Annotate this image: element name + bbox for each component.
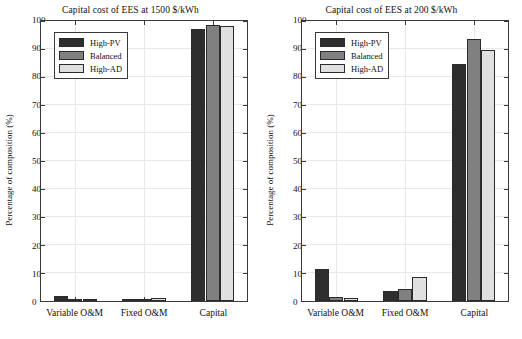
y-tick-mark bbox=[302, 189, 306, 190]
bar bbox=[191, 29, 205, 301]
legend-swatch-icon bbox=[59, 64, 84, 73]
y-tick-label: 100 bbox=[32, 15, 34, 25]
legend-item[interactable]: High-PV bbox=[59, 36, 122, 49]
y-tick-mark bbox=[41, 273, 45, 274]
legend-label: High-AD bbox=[90, 64, 122, 74]
y-tick-label: 100 bbox=[293, 15, 295, 25]
y-tick-mark bbox=[302, 105, 306, 106]
plot-wrapper: 0102030405060708090100Variable O&MFixed … bbox=[40, 20, 248, 302]
y-tick-mark bbox=[243, 273, 247, 274]
y-tick-mark bbox=[243, 49, 247, 50]
y-tick-label: 60 bbox=[293, 128, 295, 138]
y-tick-label: 70 bbox=[32, 100, 34, 110]
bar bbox=[344, 298, 358, 301]
bar bbox=[220, 26, 234, 301]
x-tick-label: Fixed O&M bbox=[382, 308, 429, 318]
y-tick-mark bbox=[504, 301, 508, 302]
y-tick-mark bbox=[504, 21, 508, 22]
legend-label: Balanced bbox=[90, 51, 122, 61]
figure-container: Capital cost of EES at 1500 $/kWhPercent… bbox=[0, 0, 522, 339]
y-tick-mark bbox=[243, 217, 247, 218]
y-tick-label: 20 bbox=[293, 241, 295, 251]
y-tick-mark bbox=[41, 189, 45, 190]
y-tick-mark bbox=[302, 217, 306, 218]
x-tick-mark bbox=[336, 21, 337, 25]
y-tick-mark bbox=[504, 133, 508, 134]
y-tick-label: 50 bbox=[293, 156, 295, 166]
legend-item[interactable]: Balanced bbox=[320, 49, 383, 62]
x-tick-label: Variable O&M bbox=[307, 308, 364, 318]
y-tick-label: 90 bbox=[32, 43, 34, 53]
y-tick-mark bbox=[41, 133, 45, 134]
y-tick-mark bbox=[302, 77, 306, 78]
y-tick-label: 0 bbox=[293, 297, 295, 307]
y-tick-mark bbox=[243, 189, 247, 190]
y-tick-label: 60 bbox=[32, 128, 34, 138]
legend-item[interactable]: High-PV bbox=[320, 36, 383, 49]
y-tick-label: 10 bbox=[32, 269, 34, 279]
x-tick-mark bbox=[405, 21, 406, 25]
y-tick-mark bbox=[41, 77, 45, 78]
chart-legend: High-PVBalancedHigh-AD bbox=[54, 32, 128, 79]
y-tick-label: 70 bbox=[293, 100, 295, 110]
y-tick-label: 90 bbox=[293, 43, 295, 53]
bar bbox=[206, 25, 220, 301]
legend-swatch-icon bbox=[59, 51, 84, 60]
y-tick-mark bbox=[302, 49, 306, 50]
y-tick-mark bbox=[41, 105, 45, 106]
y-tick-mark bbox=[243, 21, 247, 22]
y-axis-label-text: Percentage of composition (%) bbox=[4, 114, 14, 226]
y-tick-mark bbox=[504, 217, 508, 218]
bar bbox=[452, 64, 466, 301]
legend-item[interactable]: High-AD bbox=[59, 62, 122, 75]
bar bbox=[151, 298, 165, 301]
y-tick-mark bbox=[504, 49, 508, 50]
chart-title: Capital cost of EES at 200 $/kWh bbox=[261, 5, 522, 15]
y-tick-label: 30 bbox=[293, 212, 295, 222]
y-tick-mark bbox=[504, 189, 508, 190]
bar bbox=[383, 291, 397, 301]
legend-item[interactable]: Balanced bbox=[59, 49, 122, 62]
bar bbox=[481, 50, 495, 301]
legend-label: High-PV bbox=[351, 38, 382, 48]
y-tick-mark bbox=[302, 21, 306, 22]
chart-legend: High-PVBalancedHigh-AD bbox=[315, 32, 389, 79]
chart-panel: Capital cost of EES at 1500 $/kWhPercent… bbox=[0, 0, 261, 339]
y-tick-label: 40 bbox=[32, 184, 34, 194]
y-tick-mark bbox=[302, 161, 306, 162]
bar bbox=[329, 297, 343, 301]
y-tick-mark bbox=[41, 245, 45, 246]
chart-title: Capital cost of EES at 1500 $/kWh bbox=[0, 5, 261, 15]
x-tick-mark bbox=[474, 21, 475, 25]
legend-label: Balanced bbox=[351, 51, 383, 61]
x-tick-mark bbox=[144, 21, 145, 25]
legend-swatch-icon bbox=[320, 38, 345, 47]
legend-swatch-icon bbox=[320, 51, 345, 60]
y-tick-mark bbox=[243, 77, 247, 78]
y-tick-mark bbox=[41, 21, 45, 22]
x-tick-label: Variable O&M bbox=[46, 308, 103, 318]
y-tick-mark bbox=[243, 161, 247, 162]
bar bbox=[68, 299, 82, 301]
legend-swatch-icon bbox=[59, 38, 84, 47]
legend-item[interactable]: High-AD bbox=[320, 62, 383, 75]
y-axis-label: Percentage of composition (%) bbox=[2, 0, 16, 339]
y-tick-label: 50 bbox=[32, 156, 34, 166]
y-axis-label: Percentage of composition (%) bbox=[263, 0, 277, 339]
y-tick-label: 10 bbox=[293, 269, 295, 279]
y-tick-mark bbox=[504, 105, 508, 106]
y-tick-mark bbox=[243, 133, 247, 134]
y-tick-mark bbox=[302, 133, 306, 134]
legend-label: High-AD bbox=[351, 64, 383, 74]
y-tick-label: 30 bbox=[32, 212, 34, 222]
gridline-vertical bbox=[144, 21, 145, 301]
legend-swatch-icon bbox=[320, 64, 345, 73]
bar bbox=[398, 289, 412, 301]
bar bbox=[122, 299, 136, 301]
y-tick-mark bbox=[243, 105, 247, 106]
y-tick-mark bbox=[41, 217, 45, 218]
bar bbox=[54, 296, 68, 301]
y-tick-label: 80 bbox=[293, 71, 295, 81]
y-tick-mark bbox=[243, 245, 247, 246]
plot-wrapper: 0102030405060708090100Variable O&MFixed … bbox=[301, 20, 509, 302]
